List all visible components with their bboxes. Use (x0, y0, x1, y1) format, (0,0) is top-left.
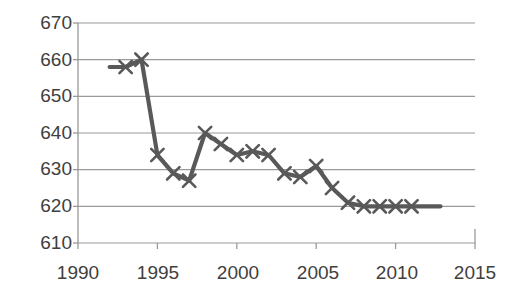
line-chart: 670 660 650 640 630 620 610 1990 1995 20… (0, 0, 514, 300)
data-point-marker (310, 160, 322, 172)
plot-area (0, 0, 514, 300)
data-point-marker (215, 138, 227, 150)
axis-ticks (73, 23, 475, 249)
data-point-marker (326, 182, 338, 194)
